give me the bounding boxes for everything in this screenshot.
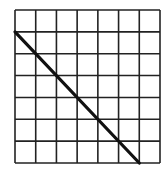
grid-lines [15,10,160,163]
grid-diagram [0,0,162,173]
